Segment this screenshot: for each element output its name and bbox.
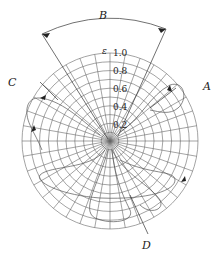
- svg-text:0.6: 0.6: [113, 84, 128, 94]
- svg-text:0.2: 0.2: [113, 120, 127, 130]
- polar-grid: [22, 53, 198, 229]
- label-a: A: [202, 80, 211, 93]
- svg-text:0.8: 0.8: [113, 66, 128, 76]
- label-c: C: [8, 76, 17, 89]
- label-d: D: [141, 239, 151, 252]
- label-b: B: [98, 9, 107, 22]
- svg-text:0.4: 0.4: [113, 102, 128, 112]
- leader-lines: [40, 18, 176, 234]
- svg-text:ε: ε: [102, 46, 107, 56]
- curves: [27, 84, 184, 222]
- arrowheads: [31, 28, 186, 182]
- polar-diagram: 1.0 0.8 0.6 0.4 0.2 ε B C A D: [0, 0, 218, 259]
- region-labels: B C A D: [8, 9, 211, 252]
- svg-text:1.0: 1.0: [113, 48, 128, 58]
